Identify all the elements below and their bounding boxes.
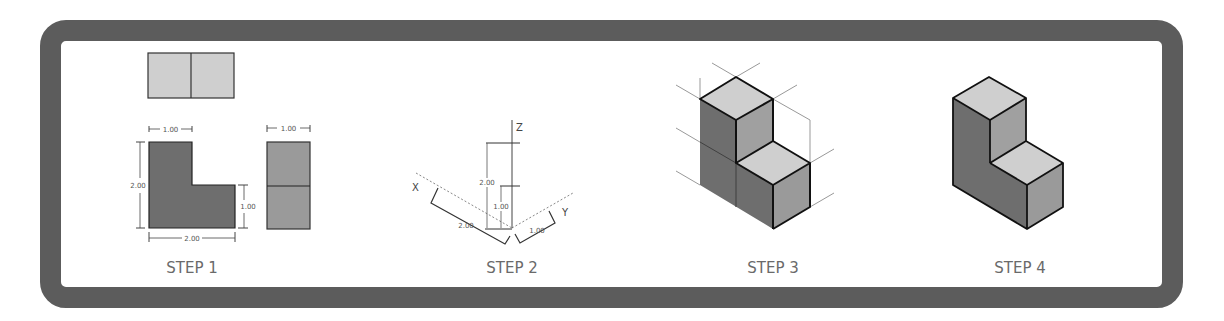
step-2-label: STEP 2 xyxy=(486,259,538,277)
front-view: 1.00 2.00 1.00 2.00 xyxy=(130,126,256,243)
top-view xyxy=(148,53,234,98)
z-axis-label: Z xyxy=(516,122,523,133)
dim-front-step-height: 1.00 xyxy=(240,203,256,211)
dim-side-width: 1.00 xyxy=(281,125,297,133)
dim-z-half: 1.00 xyxy=(493,203,509,211)
dim-front-width: 2.00 xyxy=(184,235,200,243)
step-1-label: STEP 1 xyxy=(166,259,218,277)
dim-front-height: 2.00 xyxy=(130,182,146,190)
x-axis xyxy=(416,173,512,228)
x-axis-label: X xyxy=(412,182,419,193)
step-1: 1.00 2.00 1.00 2.00 xyxy=(130,53,310,277)
steps-canvas: 1.00 2.00 1.00 2.00 xyxy=(0,0,1224,321)
dim-front-top-width: 1.00 xyxy=(163,126,179,134)
step-4: STEP 4 xyxy=(953,77,1063,277)
side-view: 1.00 xyxy=(267,125,310,230)
step-3: STEP 3 xyxy=(676,63,834,277)
step-2: Z X Y 2.00 1.00 2.00 1.00 STEP 2 xyxy=(412,120,573,277)
step-3-label: STEP 3 xyxy=(747,259,799,277)
dim-y-length: 1.00 xyxy=(529,227,545,235)
dim-x-length: 2.00 xyxy=(458,222,474,230)
y-axis-label: Y xyxy=(561,207,569,218)
step-4-label: STEP 4 xyxy=(994,259,1046,277)
dim-z-full: 2.00 xyxy=(479,179,495,187)
